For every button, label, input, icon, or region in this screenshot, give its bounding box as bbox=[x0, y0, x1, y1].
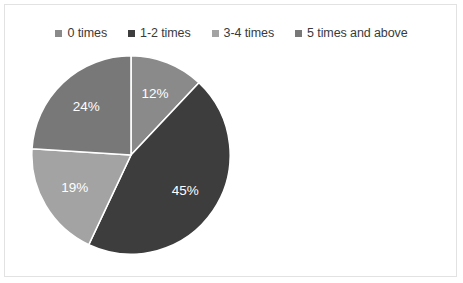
chart-frame: 0 times 1-2 times 3-4 times 5 times and … bbox=[4, 4, 457, 277]
pie-slice-label: 45% bbox=[172, 183, 199, 198]
pie-chart: 12%45%19%24% bbox=[31, 55, 231, 255]
pie-slice-label: 19% bbox=[61, 180, 88, 195]
pie-slice-group bbox=[32, 56, 230, 254]
pie-slice-label: 12% bbox=[142, 86, 169, 101]
pie-chart-area: 12%45%19%24% bbox=[5, 5, 458, 278]
pie-slice-label: 24% bbox=[73, 99, 100, 114]
